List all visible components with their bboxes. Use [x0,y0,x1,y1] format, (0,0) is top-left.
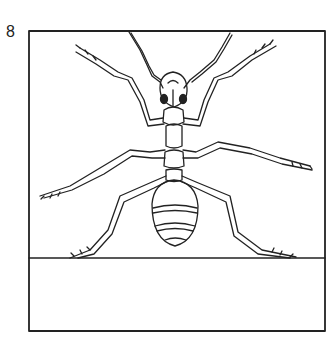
ant-illustration [0,0,328,338]
propodeum [164,150,184,168]
right-hind-leg [182,176,296,257]
right-middle-leg [183,142,310,166]
mesonotum [166,124,182,148]
gaster [152,180,198,246]
ant-illustration-frame [0,0,328,338]
left-front-leg [80,48,163,120]
right-front-leg [184,44,270,120]
right-antenna [184,33,230,88]
pronotum [163,107,184,125]
